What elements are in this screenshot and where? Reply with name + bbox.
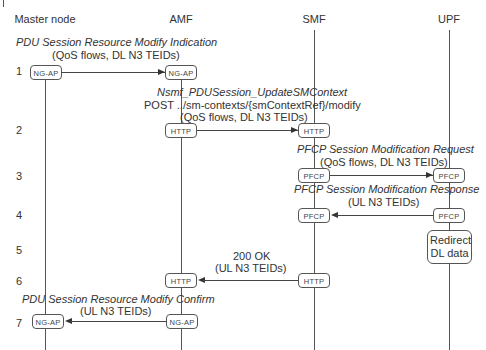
step7-ngap-box-amf: NG-AP — [166, 314, 198, 329]
participant-upf: UPF — [409, 13, 486, 25]
step6-http-box-smf: HTTP — [298, 273, 330, 288]
step3-pfcp-box-upf: PFCP — [433, 168, 465, 183]
step2-http-box-amf: HTTP — [165, 123, 197, 138]
step1-title: PDU Session Resource Modify Indication — [16, 36, 217, 49]
step7-arrow — [70, 321, 166, 322]
step5-number: 5 — [16, 244, 22, 256]
lifeline-master-node — [45, 80, 46, 350]
step4-pfcp-box-smf: PFCP — [298, 208, 330, 223]
step2-params: (QoS flows, DL N3 TEIDs) — [180, 111, 308, 124]
step3-title: PFCP Session Modification Request — [297, 143, 474, 156]
step2-title: Nsmf_PDUSession_UpdateSMContext — [157, 86, 347, 99]
step4-pfcp-box-upf: PFCP — [433, 208, 465, 223]
step1-ngap-box-master: NG-AP — [30, 65, 62, 80]
step3-arrow — [330, 175, 433, 176]
step7-number: 7 — [16, 317, 22, 329]
step4-title: PFCP Session Modification Response — [294, 183, 479, 196]
step4-params: (UL N3 TEIDs) — [348, 196, 420, 209]
arrowhead-right-icon — [426, 172, 433, 178]
step3-params: (QoS flows, DL N3 TEIDs) — [320, 156, 448, 169]
step2-number: 2 — [16, 124, 22, 136]
step5-action-line1: Redirect — [430, 234, 469, 247]
step7-params: (UL N3 TEIDs) — [80, 305, 152, 318]
arrowhead-right-icon — [158, 69, 165, 75]
step1-number: 1 — [16, 65, 22, 77]
arrowhead-right-icon — [291, 127, 298, 133]
step3-number: 3 — [16, 170, 22, 182]
step1-ngap-box-amf: NG-AP — [165, 65, 197, 80]
corner-mark — [3, 0, 4, 7]
step2-arrow — [197, 130, 298, 131]
step1-params: (QoS flows, DL N3 TEIDs) — [52, 49, 180, 62]
step5-action-line2: DL data — [430, 247, 469, 260]
step5-redirect-box: Redirect DL data — [427, 230, 472, 264]
step4-arrow — [336, 215, 433, 216]
step6-http-box-amf: HTTP — [165, 273, 197, 288]
step1-arrow — [62, 72, 165, 73]
step3-pfcp-box-smf: PFCP — [298, 168, 330, 183]
participant-amf: AMF — [141, 13, 221, 25]
participant-master-node: Master node — [5, 13, 85, 25]
step7-ngap-box-master: NG-AP — [32, 314, 64, 329]
step6-arrow — [203, 280, 298, 281]
step6-number: 6 — [16, 275, 22, 287]
step2-http-box-smf: HTTP — [298, 123, 330, 138]
step6-params: (UL N3 TEIDs) — [215, 262, 287, 275]
participant-smf: SMF — [274, 13, 354, 25]
step4-number: 4 — [16, 209, 22, 221]
